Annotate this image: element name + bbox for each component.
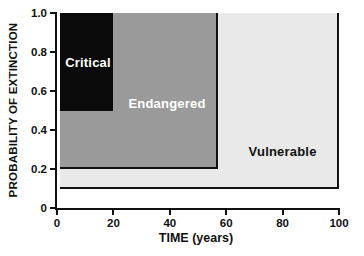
x-axis-title: TIME (years) [159, 231, 233, 245]
y-tick [50, 12, 57, 14]
x-tick [169, 208, 171, 215]
y-axis-title: PROBABILITY OF EXTINCTION [7, 23, 19, 198]
x-tick-label: 60 [220, 217, 233, 229]
y-tick-label: 1.0 [31, 7, 47, 19]
x-tick [225, 208, 227, 215]
region-label-endangered: Endangered [128, 95, 205, 110]
y-tick [50, 51, 57, 53]
y-tick [50, 168, 57, 170]
x-tick-label: 40 [163, 217, 176, 229]
region-label-vulnerable: Vulnerable [249, 144, 317, 159]
y-tick-label: 0.6 [31, 85, 47, 97]
y-tick [50, 129, 57, 131]
x-tick [282, 208, 284, 215]
x-tick [112, 208, 114, 215]
x-tick [338, 208, 340, 215]
y-tick-label: 0.8 [31, 46, 47, 58]
x-tick-label: 0 [54, 217, 60, 229]
x-tick-label: 20 [107, 217, 120, 229]
plot-area: VulnerableEndangeredCritical020406080100… [55, 13, 339, 210]
y-tick-label: 0 [41, 202, 47, 214]
y-tick-label: 0.4 [31, 124, 47, 136]
region-label-critical: Critical [65, 54, 111, 69]
extinction-risk-figure: PROBABILITY OF EXTINCTION VulnerableEnda… [0, 0, 364, 256]
y-tick-label: 0.2 [31, 163, 47, 175]
x-tick [56, 208, 58, 215]
y-tick [50, 207, 57, 209]
x-tick-label: 80 [276, 217, 289, 229]
x-tick-label: 100 [329, 217, 348, 229]
y-tick [50, 90, 57, 92]
